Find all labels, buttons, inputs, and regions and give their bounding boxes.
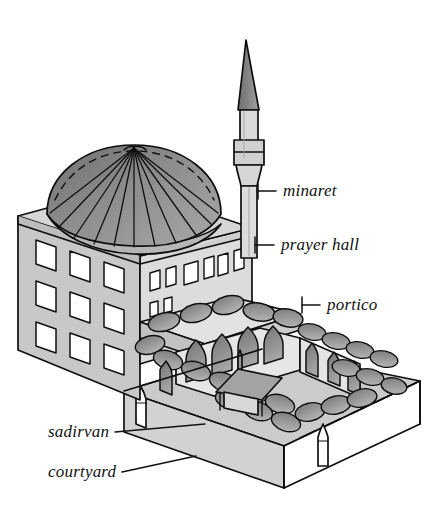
- label-minaret: minaret: [283, 181, 337, 201]
- label-prayer-hall: prayer hall: [281, 235, 359, 255]
- label-sadirvan: sadirvan: [48, 422, 109, 442]
- leader-courtyard: [122, 456, 196, 472]
- mosque-axonometric-drawing: [0, 0, 431, 532]
- central-dome: [47, 145, 221, 254]
- gate-finial-right: [318, 424, 328, 466]
- figure-canvas: minaret prayer hall portico sadirvan cou…: [0, 0, 431, 532]
- label-courtyard: courtyard: [48, 462, 116, 482]
- label-portico: portico: [327, 295, 378, 315]
